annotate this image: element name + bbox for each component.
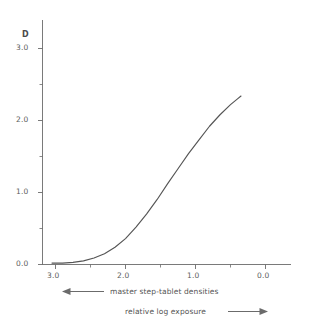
plot-canvas: [0, 0, 309, 332]
y-tick-label-1: 1.0: [16, 188, 29, 196]
y-axis-title: D: [22, 31, 29, 39]
characteristic-curve-figure: D 3.0 2.0 1.0 0.0 3.0 2.0 1.0 0.0 master…: [0, 0, 309, 332]
arrow-right-icon: [228, 308, 268, 315]
annotation-master-step-tablet-densities: master step-tablet densities: [110, 288, 219, 296]
x-tick-label-2: 2.0: [117, 272, 130, 280]
arrow-left-icon: [62, 288, 104, 295]
y-tick-label-3: 3.0: [16, 44, 29, 52]
x-minor-ticks: [91, 265, 231, 268]
x-tick-label-1: 1.0: [187, 272, 200, 280]
x-tick-label-3: 3.0: [47, 272, 60, 280]
x-tick-label-0: 0.0: [257, 272, 270, 280]
y-tick-label-0: 0.0: [16, 260, 29, 268]
annotation-relative-log-exposure: relative log exposure: [125, 308, 206, 316]
y-tick-label-2: 2.0: [16, 116, 29, 124]
data-series-characteristic-curve: [52, 96, 241, 263]
